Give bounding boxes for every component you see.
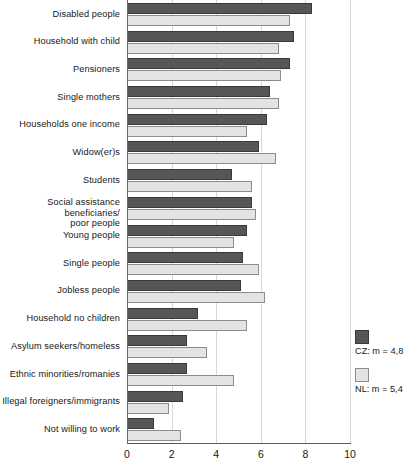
bar-nl [127, 237, 234, 248]
bar-group [127, 415, 350, 443]
bar-group [127, 249, 350, 277]
bar-group [127, 360, 350, 388]
bar-group [127, 194, 350, 222]
bar-nl [127, 264, 259, 275]
category-label: Single people [0, 258, 120, 269]
bar-nl [127, 375, 234, 386]
bar-group [127, 0, 350, 28]
bar-cz [127, 308, 198, 319]
bar-group [127, 138, 350, 166]
bar-nl [127, 15, 290, 26]
bar-nl [127, 320, 247, 331]
gridline-x-10 [350, 0, 351, 443]
bar-group [127, 222, 350, 250]
bar-nl [127, 126, 247, 137]
x-tick-label-10: 10 [344, 448, 356, 460]
category-label: Ethnic minorities/romanies [0, 369, 120, 380]
bar-cz [127, 418, 154, 429]
x-tick-label-2: 2 [169, 448, 175, 460]
category-label: Household no children [0, 313, 120, 324]
category-label: Single mothers [0, 92, 120, 103]
legend-swatch [355, 330, 369, 344]
bar-nl [127, 153, 276, 164]
bar-nl [127, 98, 279, 109]
bar-cz [127, 114, 267, 125]
category-label: Household with child [0, 36, 120, 47]
legend-item[interactable]: NL: m = 5,4 [355, 368, 408, 394]
category-label: Widow(er)s [0, 147, 120, 158]
bar-group [127, 55, 350, 83]
plot-area [127, 0, 350, 443]
bar-cz [127, 3, 312, 14]
chart-legend: CZ: m = 4,8NL: m = 5,4 [355, 330, 408, 406]
category-label-column: Disabled peopleHousehold with childPensi… [0, 0, 124, 443]
bar-nl [127, 181, 252, 192]
category-label: Young people [0, 230, 120, 241]
bar-group [127, 166, 350, 194]
legend-label: NL: m = 5,4 [355, 384, 408, 394]
legend-item[interactable]: CZ: m = 4,8 [355, 330, 408, 356]
category-label: Asylum seekers/homeless [0, 341, 120, 352]
bar-nl [127, 43, 279, 54]
category-label: Households one income [0, 119, 120, 130]
bar-cz [127, 169, 232, 180]
category-label: Pensioners [0, 64, 120, 75]
category-label: Not willing to work [0, 424, 120, 435]
bar-cz [127, 225, 247, 236]
y-axis-line [127, 0, 128, 443]
bar-cz [127, 363, 187, 374]
x-tick-label-6: 6 [258, 448, 264, 460]
bar-cz [127, 335, 187, 346]
bar-cz [127, 86, 270, 97]
category-label: Illegal foreigners/immigrants [0, 396, 120, 407]
bar-group [127, 305, 350, 333]
bar-cz [127, 31, 294, 42]
bar-group [127, 277, 350, 305]
category-label: Students [0, 175, 120, 186]
x-axis-line [127, 443, 351, 444]
x-tick-label-0: 0 [124, 448, 130, 460]
bar-nl [127, 430, 181, 441]
legend-label: CZ: m = 4,8 [355, 346, 408, 356]
legend-swatch [355, 368, 369, 382]
bar-nl [127, 347, 207, 358]
bar-group [127, 28, 350, 56]
bar-group [127, 332, 350, 360]
bar-cz [127, 197, 252, 208]
bar-cz [127, 141, 259, 152]
category-label: Disabled people [0, 9, 120, 20]
bar-cz [127, 391, 183, 402]
bar-cz [127, 280, 241, 291]
category-label: Jobless people [0, 285, 120, 296]
x-tick-label-8: 8 [302, 448, 308, 460]
x-tick-label-4: 4 [213, 448, 219, 460]
bar-cz [127, 58, 290, 69]
bar-nl [127, 70, 281, 81]
bar-nl [127, 403, 169, 414]
bar-nl [127, 292, 265, 303]
bar-cz [127, 252, 243, 263]
category-label: Social assistance beneficiaries/ poor pe… [0, 197, 120, 229]
bar-nl [127, 209, 256, 220]
bar-group [127, 388, 350, 416]
bar-group [127, 83, 350, 111]
horizontal-bar-chart: Disabled peopleHousehold with childPensi… [0, 0, 408, 471]
bar-group [127, 111, 350, 139]
